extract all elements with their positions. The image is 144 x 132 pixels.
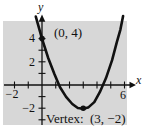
y-axis-arrow-icon: [39, 15, 46, 22]
point-dot: [39, 36, 45, 42]
y-tick-label-2: 2: [25, 56, 35, 69]
y-axis-label: y: [38, 1, 43, 14]
vertex-point-label: Vertex: (3, −2): [46, 112, 126, 126]
parabola-figure: y x 4 2 −2 −2 6 (0, 4) Vertex: (3, −2): [0, 0, 144, 132]
y-tick-label-neg2: −2: [18, 102, 35, 115]
x-axis-label: x: [136, 74, 141, 87]
x-tick-label-6: 6: [117, 89, 129, 102]
x-tick-label-neg2: −2: [4, 88, 20, 101]
intercept-point-label: (0, 4): [54, 26, 82, 40]
y-tick-label-4: 4: [25, 32, 35, 45]
